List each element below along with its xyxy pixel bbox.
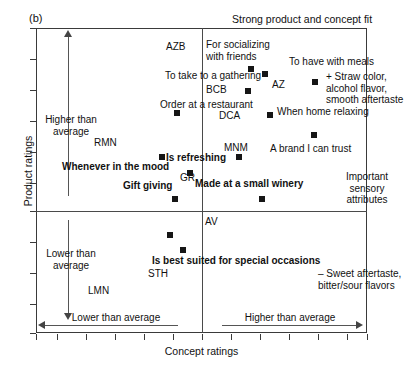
important-sensory-attributes-note: Important sensory attributes xyxy=(331,171,403,206)
arrow-left-icon xyxy=(38,321,45,329)
x-axis-tick xyxy=(115,334,116,340)
y-lower-than-average-label: Lower than average xyxy=(36,248,106,271)
x-axis-title: Concept ratings xyxy=(36,345,367,357)
x-axis-tick xyxy=(36,334,37,340)
code-label-bcb: BCB xyxy=(206,84,227,95)
code-label-azb: AZB xyxy=(166,41,185,52)
marker-gr xyxy=(187,170,193,176)
label-is-refreshing: Is refreshing xyxy=(166,152,242,164)
strong-fit-note: Strong product and concept fit xyxy=(232,13,372,25)
x-axis-tick xyxy=(202,334,203,340)
label-whenever-in-the-mood: Whenever in the mood xyxy=(62,161,178,173)
y-axis-tick xyxy=(30,90,36,91)
code-label-rmn: RMN xyxy=(94,137,117,148)
code-label-sth: STH xyxy=(148,268,168,279)
panel-label: (b) xyxy=(29,12,42,24)
marker-brand-i-can-trust xyxy=(311,132,317,138)
y-axis-tick xyxy=(30,28,36,29)
marker-made-at-small-winery xyxy=(259,196,265,202)
label-gift-giving: Gift giving xyxy=(123,180,189,192)
label-made-at-a-small-winery: Made at a small winery xyxy=(195,178,329,190)
x-axis-tick xyxy=(144,334,145,340)
x-axis-tick xyxy=(347,334,348,340)
x-lower-arrow-line xyxy=(44,325,178,326)
label-is-best-suited-for-special-occasions: Is best suited for special occasions xyxy=(152,255,324,267)
x-axis-tick xyxy=(367,334,368,340)
x-axis-tick xyxy=(173,334,174,340)
x-axis-tick xyxy=(260,334,261,340)
label-to-take-to-a-gathering: To take to a gathering xyxy=(165,70,277,82)
marker-sth xyxy=(180,247,186,253)
label-for-socializing-with-friends: For socializing with friends xyxy=(206,39,298,62)
marker-gift-giving xyxy=(172,196,178,202)
marker-order-at-restaurant xyxy=(174,110,180,116)
y-axis-title: Product ratings xyxy=(22,116,34,226)
arrow-right-icon xyxy=(356,321,363,329)
marker-to-have-with-meals xyxy=(312,79,318,85)
y-axis-tick xyxy=(30,273,36,274)
code-label-lmn: LMN xyxy=(88,285,109,296)
marker-whenever-in-the-mood xyxy=(159,154,165,160)
x-lower-than-average-label: Lower than average xyxy=(68,312,164,324)
sensory-negative-note: – Sweet aftertaste, bitter/sour flavors xyxy=(318,268,410,291)
marker-bcb xyxy=(245,88,251,94)
x-higher-than-average-label: Higher than average xyxy=(240,312,340,324)
marker-mnm xyxy=(236,154,242,160)
y-axis-tick xyxy=(30,59,36,60)
y-higher-than-average-label: Higher than average xyxy=(36,114,106,137)
x-axis-tick xyxy=(86,334,87,340)
code-label-av: AV xyxy=(205,216,218,227)
marker-az xyxy=(262,71,268,77)
arrow-up-icon xyxy=(64,30,72,37)
label-to-have-with-meals: To have with meals xyxy=(289,56,375,68)
sensory-positive-note: + Straw color, alcohol flavor, smooth af… xyxy=(326,71,410,106)
x-axis-tick xyxy=(231,334,232,340)
perceptual-map-figure: (b) Strong product and concept fit Produ… xyxy=(0,0,411,367)
marker-av xyxy=(167,232,173,238)
x-higher-arrow-line xyxy=(222,325,356,326)
quadrant-divider-horizontal xyxy=(36,211,367,212)
label-order-at-a-restaurant: Order at a restaurant xyxy=(160,99,270,111)
label-a-brand-i-can-trust: A brand I can trust xyxy=(270,143,370,155)
x-axis-tick xyxy=(57,334,58,340)
y-axis-tick xyxy=(30,242,36,243)
code-label-dca: DCA xyxy=(219,110,240,121)
y-axis-tick xyxy=(30,304,36,305)
code-label-az: AZ xyxy=(272,79,285,90)
marker-when-home-relaxing xyxy=(267,112,273,118)
label-when-home-relaxing: When home relaxing xyxy=(277,106,377,118)
x-axis-tick xyxy=(318,334,319,340)
x-axis-tick xyxy=(289,334,290,340)
marker-for-socializing xyxy=(248,66,254,72)
